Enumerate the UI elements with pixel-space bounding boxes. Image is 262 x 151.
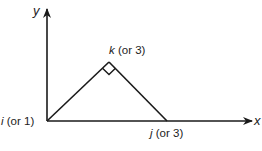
x-axis-label: x — [254, 114, 261, 127]
y-axis-label: y — [33, 4, 40, 17]
point-j-label: j (or 3) — [150, 128, 183, 140]
point-i-label: i (or 1) — [1, 116, 34, 128]
right-angle-marker — [103, 68, 116, 74]
side-ik — [47, 62, 109, 121]
point-k-label: k (or 3) — [109, 45, 145, 57]
point-j-suffix: (or 3) — [153, 127, 184, 139]
point-k-suffix: (or 3) — [115, 44, 146, 56]
point-i-suffix: (or 1) — [4, 115, 35, 127]
diagram-canvas — [0, 0, 262, 151]
side-kj — [109, 62, 167, 121]
